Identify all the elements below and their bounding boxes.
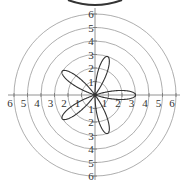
- svg-text:3: 3: [48, 97, 54, 109]
- cropped-top-arc: [68, 0, 122, 5]
- svg-text:4: 4: [88, 35, 94, 47]
- svg-text:2: 2: [88, 62, 94, 74]
- svg-text:2: 2: [88, 116, 94, 128]
- polar-rose-plot: 654321123456123456123456: [0, 0, 181, 185]
- svg-text:6: 6: [88, 8, 94, 20]
- svg-text:3: 3: [88, 130, 94, 142]
- svg-text:1: 1: [88, 103, 94, 115]
- svg-text:3: 3: [88, 49, 94, 61]
- svg-text:5: 5: [88, 157, 94, 169]
- svg-text:5: 5: [21, 97, 27, 109]
- svg-text:6: 6: [88, 170, 94, 182]
- svg-text:5: 5: [156, 97, 162, 109]
- svg-text:1: 1: [88, 76, 94, 88]
- svg-text:4: 4: [142, 97, 148, 109]
- svg-text:6: 6: [169, 97, 175, 109]
- svg-text:4: 4: [88, 143, 94, 155]
- svg-text:4: 4: [34, 97, 40, 109]
- svg-text:6: 6: [7, 97, 13, 109]
- svg-text:5: 5: [88, 22, 94, 34]
- svg-text:2: 2: [61, 97, 67, 109]
